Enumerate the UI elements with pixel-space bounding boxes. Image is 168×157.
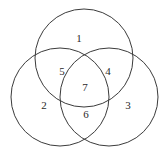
region-label-left-only: 2 xyxy=(41,99,47,111)
region-label-top-left: 5 xyxy=(59,65,65,77)
region-label-right-only: 3 xyxy=(125,99,131,111)
region-label-center: 7 xyxy=(82,81,88,93)
region-label-left-right: 6 xyxy=(83,108,89,120)
region-label-top-right: 4 xyxy=(105,65,111,77)
region-label-top-only: 1 xyxy=(76,32,82,44)
venn-diagram-figure: 1 2 3 4 5 6 7 xyxy=(0,0,168,157)
venn-diagram-canvas: 1 2 3 4 5 6 7 xyxy=(0,0,168,157)
